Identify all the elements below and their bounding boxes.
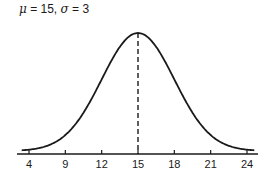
x-axis-ticks: 491215182124 <box>26 150 253 170</box>
x-tick-label: 9 <box>62 158 68 170</box>
x-tick-label: 4 <box>26 158 32 170</box>
chart-area: 491215182124 <box>0 0 273 179</box>
x-tick-label: 12 <box>96 158 108 170</box>
x-tick-label: 18 <box>168 158 180 170</box>
x-tick-label: 15 <box>132 158 144 170</box>
x-tick-label: 21 <box>205 158 217 170</box>
x-tick-label: 24 <box>241 158 253 170</box>
